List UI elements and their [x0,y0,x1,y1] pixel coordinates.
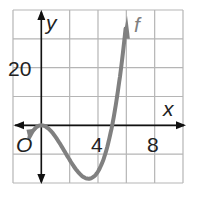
curve-label-f: f [134,13,142,36]
function-graph: y x f 20 4 8 O [0,0,198,203]
x-axis-label: x [162,97,175,120]
y-tick-20: 20 [8,57,31,80]
grid [13,10,183,183]
y-axis-label: y [44,11,58,34]
x-tick-4: 4 [91,133,103,156]
x-tick-8: 8 [147,133,159,156]
origin-label: O [16,133,32,156]
function-curve-f [29,28,125,178]
